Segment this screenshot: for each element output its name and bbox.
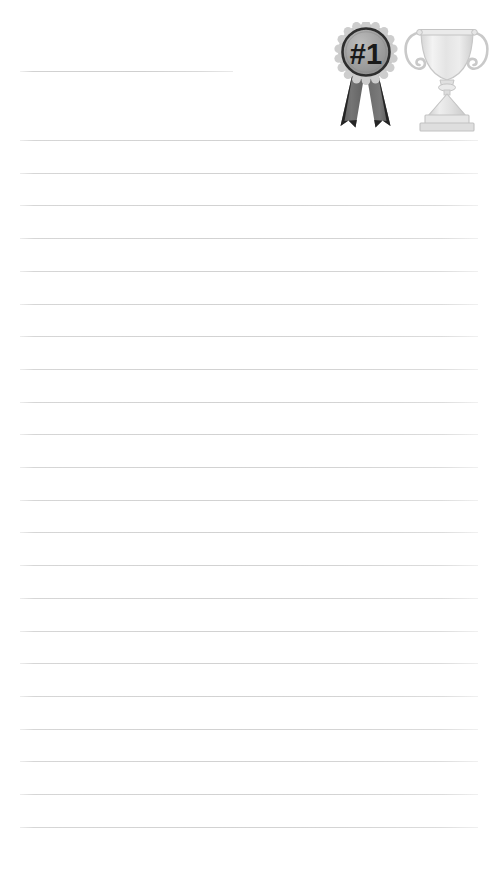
writing-rule	[20, 173, 478, 174]
writing-rule	[20, 402, 478, 403]
writing-rule	[20, 696, 478, 697]
writing-rule	[20, 271, 478, 272]
writing-rule	[20, 500, 478, 501]
writing-rule	[20, 238, 478, 239]
writing-rule	[20, 532, 478, 533]
writing-rule	[20, 598, 478, 599]
notepaper-page: #1	[0, 0, 499, 871]
writing-rule	[20, 729, 478, 730]
writing-rule	[20, 369, 478, 370]
writing-rule	[20, 761, 478, 762]
writing-rule	[20, 140, 478, 141]
writing-rule	[20, 336, 478, 337]
writing-rule	[20, 434, 478, 435]
writing-rule	[20, 663, 478, 664]
writing-rule	[20, 205, 478, 206]
writing-rule	[20, 467, 478, 468]
ruled-lines	[0, 0, 499, 871]
writing-rule	[20, 631, 478, 632]
writing-rule	[20, 565, 478, 566]
writing-rule	[20, 827, 478, 828]
writing-rule	[20, 304, 478, 305]
writing-rule	[20, 794, 478, 795]
